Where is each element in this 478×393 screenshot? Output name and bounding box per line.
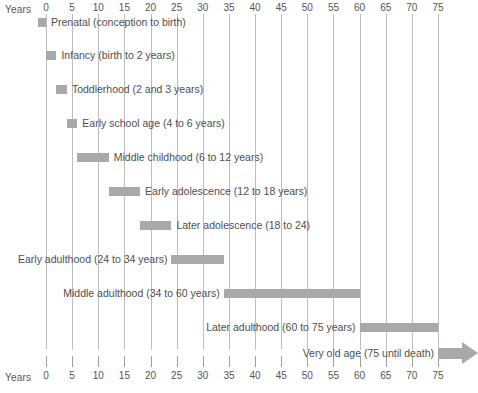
tick-label-bottom-50: 50 <box>302 370 313 381</box>
tick-label-bottom-20: 20 <box>145 370 156 381</box>
tick-label-top-20: 20 <box>145 2 156 13</box>
table-row: Prenatal (conception to birth) <box>0 15 478 29</box>
stage-label-middle-adulthood: Middle adulthood (34 to 60 years) <box>63 286 219 300</box>
stage-bar-early-school-age <box>67 119 77 128</box>
table-row: Very old age (75 until death) <box>0 346 478 360</box>
tick-label-bottom-30: 30 <box>197 370 208 381</box>
axis-caption-bottom: Years <box>5 372 31 383</box>
stage-bar-infancy <box>46 51 56 60</box>
table-row: Early school age (4 to 6 years) <box>0 116 478 130</box>
tick-label-bottom-65: 65 <box>380 370 391 381</box>
stage-label-toddlerhood: Toddlerhood (2 and 3 years) <box>72 82 203 96</box>
table-row: Early adolescence (12 to 18 years) <box>0 184 478 198</box>
stage-bar-prenatal <box>38 18 46 27</box>
arrow-shaft <box>438 348 462 359</box>
tick-label-bottom-25: 25 <box>171 370 182 381</box>
tick-label-bottom-55: 55 <box>328 370 339 381</box>
tick-label-top-65: 65 <box>380 2 391 13</box>
tick-label-bottom-75: 75 <box>432 370 443 381</box>
stage-bar-early-adolescence <box>109 187 140 196</box>
stage-label-early-school-age: Early school age (4 to 6 years) <box>82 116 224 130</box>
stage-label-early-adulthood: Early adulthood (24 to 34 years) <box>18 252 167 266</box>
tick-label-bottom-15: 15 <box>119 370 130 381</box>
tick-label-bottom-10: 10 <box>93 370 104 381</box>
table-row: Later adolescence (18 to 24) <box>0 218 478 232</box>
stage-bar-toddlerhood <box>56 85 66 94</box>
stage-label-middle-childhood: Middle childhood (6 to 12 years) <box>114 150 263 164</box>
table-row: Toddlerhood (2 and 3 years) <box>0 82 478 96</box>
stage-label-later-adulthood: Later adulthood (60 to 75 years) <box>206 320 355 334</box>
tick-label-bottom-60: 60 <box>354 370 365 381</box>
tick-label-top-45: 45 <box>276 2 287 13</box>
stage-label-later-adolescence: Later adolescence (18 to 24) <box>176 218 310 232</box>
axis-caption-top: Years <box>5 4 31 15</box>
tick-label-top-50: 50 <box>302 2 313 13</box>
tick-label-top-25: 25 <box>171 2 182 13</box>
stage-bar-middle-adulthood <box>224 289 360 298</box>
tick-label-top-15: 15 <box>119 2 130 13</box>
stage-bar-early-adulthood <box>171 255 223 264</box>
tick-label-top-75: 75 <box>432 2 443 13</box>
tick-label-top-35: 35 <box>223 2 234 13</box>
open-ended-arrow <box>438 342 478 364</box>
lifespan-timeline-chart: Years Years 0510152025303540455055606570… <box>0 0 478 393</box>
stage-bar-middle-childhood <box>77 153 108 162</box>
tick-label-bottom-45: 45 <box>276 370 287 381</box>
arrow-head-icon <box>462 342 478 364</box>
tick-label-bottom-40: 40 <box>250 370 261 381</box>
tick-label-top-40: 40 <box>250 2 261 13</box>
table-row: Early adulthood (24 to 34 years) <box>0 252 478 266</box>
table-row: Infancy (birth to 2 years) <box>0 48 478 62</box>
tick-label-top-30: 30 <box>197 2 208 13</box>
tick-label-bottom-70: 70 <box>406 370 417 381</box>
stage-label-prenatal: Prenatal (conception to birth) <box>51 15 186 29</box>
stage-label-early-adolescence: Early adolescence (12 to 18 years) <box>145 184 307 198</box>
tick-label-bottom-5: 5 <box>69 370 75 381</box>
stage-label-infancy: Infancy (birth to 2 years) <box>61 48 174 62</box>
tick-label-top-70: 70 <box>406 2 417 13</box>
stage-bar-later-adolescence <box>140 221 171 230</box>
table-row: Later adulthood (60 to 75 years) <box>0 320 478 334</box>
stage-label-very-old-age: Very old age (75 until death) <box>303 346 434 360</box>
table-row: Middle childhood (6 to 12 years) <box>0 150 478 164</box>
tick-label-top-55: 55 <box>328 2 339 13</box>
tick-label-top-10: 10 <box>93 2 104 13</box>
tick-label-top-60: 60 <box>354 2 365 13</box>
table-row: Middle adulthood (34 to 60 years) <box>0 286 478 300</box>
tick-label-top-0: 0 <box>43 2 49 13</box>
tick-label-bottom-35: 35 <box>223 370 234 381</box>
tick-label-top-5: 5 <box>69 2 75 13</box>
tick-label-bottom-0: 0 <box>43 370 49 381</box>
stage-bar-later-adulthood <box>360 323 438 332</box>
